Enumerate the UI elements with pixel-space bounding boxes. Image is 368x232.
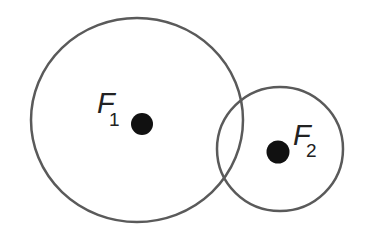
focus-2-subscript: 2 — [306, 140, 317, 161]
focus-1-subscript: 1 — [109, 109, 120, 130]
focus-1-dot — [131, 113, 153, 135]
diagram-canvas: F 1 F 2 — [0, 0, 368, 232]
focus-2-dot — [267, 141, 290, 164]
